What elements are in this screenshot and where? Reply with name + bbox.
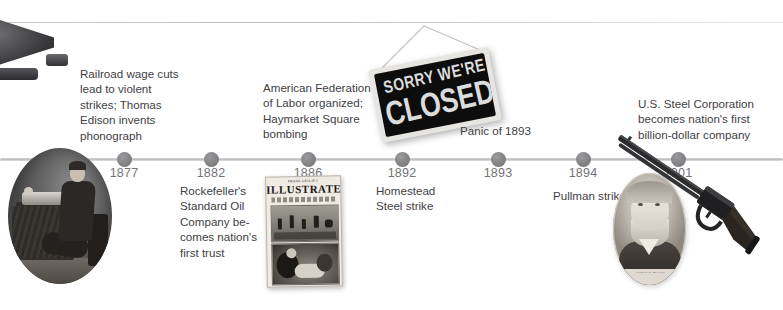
timeline-node-1893[interactable] [491, 152, 506, 167]
newspaper-engraving-bottom [271, 242, 340, 285]
frank-leslies-illustrated-cover: FRANK LESLIE'S ILLUSTRATED [265, 175, 343, 287]
newspaper-masthead: ILLUSTRATED [266, 182, 340, 195]
event-caption-1882: Rockefeller's Standard Oil Company be- c… [180, 183, 270, 260]
horn-neck [46, 54, 68, 66]
sorry-were-closed-sign: SORRY WE'RE CLOSED [368, 24, 514, 134]
photo-figure-hair [69, 161, 86, 170]
timeline-node-1892[interactable] [395, 152, 410, 167]
newspaper-subheadline-lines [271, 196, 335, 202]
year-label-1877: 1877 [110, 166, 139, 180]
timeline-node-1886[interactable] [301, 152, 316, 167]
year-label-1882: 1882 [197, 166, 226, 180]
top-divider-rule [0, 22, 783, 23]
event-caption-1886: American Federation of Labor organized; … [263, 80, 387, 142]
timeline-canvas: SORRY WE'RE CLOSED 1877 1882 1886 1892 1… [0, 0, 783, 310]
winchester-rifle-photo [596, 96, 782, 282]
year-label-1893: 1893 [484, 166, 513, 180]
newspaper-engraving-top [271, 204, 340, 242]
year-label-1894: 1894 [569, 166, 598, 180]
event-caption-1877: Railroad wage cuts lead to violent strik… [80, 66, 192, 143]
photo-figure-body [58, 181, 96, 241]
timeline-node-1877[interactable] [117, 152, 132, 167]
event-caption-1892: Homestead Steel strike [376, 183, 466, 214]
edison-phonograph-photo [8, 148, 112, 284]
year-label-1892: 1892 [388, 166, 417, 180]
event-caption-1893: Panic of 1893 [460, 123, 550, 138]
horn-base [0, 68, 38, 80]
timeline-node-1894[interactable] [576, 152, 591, 167]
photo-phonograph-knob [24, 187, 33, 195]
timeline-node-1882[interactable] [204, 152, 219, 167]
phonograph-horn-photo [0, 10, 68, 84]
